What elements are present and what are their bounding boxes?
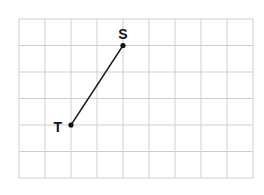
point-t bbox=[68, 122, 73, 127]
point-label-t: T bbox=[53, 119, 62, 135]
grid bbox=[19, 19, 253, 178]
point-s bbox=[120, 43, 125, 48]
grid-diagram: ST bbox=[0, 0, 264, 195]
point-label-s: S bbox=[118, 26, 127, 42]
points: ST bbox=[53, 26, 127, 136]
